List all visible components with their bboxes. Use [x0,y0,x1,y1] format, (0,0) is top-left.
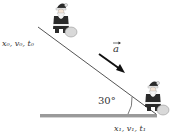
acceleration-label: a [113,43,119,54]
initial-state-label: x₀, v₀, t₀ [2,39,35,48]
final-state-label: x₁, v₁, t₁ [114,124,146,133]
santa-figure-bottom [145,82,169,116]
acceleration-label-group: a [113,42,121,54]
acceleration-arrow [99,54,125,73]
angle-arc [128,97,132,114]
incline-diagram: 30° a x₀, v₀, t₀ x₁, v₁, t₁ [0,0,176,136]
santa-figure-top [53,4,77,38]
angle-label: 30° [98,95,116,106]
incline-line [38,27,156,114]
ground [40,114,157,118]
